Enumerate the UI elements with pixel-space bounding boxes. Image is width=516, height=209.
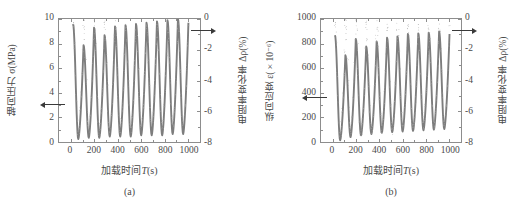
x-tick-b-3: 600: [396, 146, 410, 156]
y-tick-right-b-1: -2: [465, 45, 473, 55]
y-tick-left-a-0: 10: [45, 13, 55, 23]
y-tick-left-b-0: 1000: [297, 13, 316, 23]
y-tick-left-a-5: 0: [49, 138, 54, 148]
annotation-arrow-left-b: [307, 97, 327, 98]
x-tick-a-2: 400: [110, 146, 124, 156]
y-tick-right-b-2: -4: [465, 76, 473, 86]
annotation-arrow-right-b: [452, 30, 472, 31]
x-tick-labels-a: 0 200 400 600 800 1000: [58, 146, 201, 158]
series-canvas-a: [59, 19, 200, 142]
y-tick-left-a-3: 4: [49, 88, 54, 98]
x-tick-b-1: 200: [348, 146, 362, 156]
chart-panel-b: 纵向应变 ε(×10⁻⁶) 电阻率变化率 Δρ(%) 1000 800 600 …: [258, 0, 516, 209]
plot-area-a: [58, 18, 201, 143]
y-tick-left-b-5: 0: [311, 138, 316, 148]
axis-title-x-b-unit: (s): [409, 165, 420, 176]
figure-cyclic-loading-resistivity: 轴向压力 σ(MPa) 电阻率变化率 Δρ(%) 10 8 6 4 2 0 0 …: [0, 0, 516, 209]
y-tick-right-a-0: 0: [204, 13, 209, 23]
y-tick-labels-right-b: 0 -2 -4 -6 -8: [465, 18, 495, 143]
y-tick-right-b-0: 0: [465, 13, 470, 23]
x-tick-labels-b: 0 200 400 600 800 1000: [320, 146, 462, 158]
y-tick-right-b-3: -6: [465, 107, 473, 117]
y-tick-right-a-4: -8: [204, 138, 212, 148]
y-tick-left-b-1: 800: [302, 38, 316, 48]
axis-title-x-a: 加载时间T(s): [58, 162, 201, 177]
y-tick-left-a-1: 8: [49, 38, 54, 48]
axis-title-x-b: 加载时间T(s): [320, 162, 462, 177]
chart-panel-a: 轴向压力 σ(MPa) 电阻率变化率 Δρ(%) 10 8 6 4 2 0 0 …: [0, 0, 258, 209]
axis-title-right-a: 电阻率变化率 Δρ(%): [236, 18, 250, 143]
panel-label-a: (a): [58, 186, 201, 197]
y-tick-left-b-2: 600: [302, 63, 316, 73]
x-tick-a-3: 600: [134, 146, 148, 156]
y-tick-left-a-4: 2: [49, 113, 54, 123]
axis-title-x-a-unit: (s): [147, 165, 158, 176]
y-tick-right-a-2: -4: [204, 76, 212, 86]
y-tick-right-a-1: -2: [204, 45, 212, 55]
y-tick-labels-left-b: 1000 800 600 400 200 0: [258, 18, 316, 143]
y-tick-labels-right-a: 0 -2 -4 -6 -8: [204, 18, 234, 143]
annotation-arrow-left-a: [45, 104, 65, 105]
x-tick-a-4: 800: [158, 146, 172, 156]
y-tick-left-b-4: 200: [302, 113, 316, 123]
plot-area-b: [320, 18, 462, 143]
y-tick-labels-left-a: 10 8 6 4 2 0: [0, 18, 54, 143]
x-tick-a-5: 1000: [180, 146, 199, 156]
x-tick-b-4: 800: [419, 146, 433, 156]
x-tick-a-0: 0: [68, 146, 73, 156]
x-tick-b-5: 1000: [441, 146, 460, 156]
y-tick-right-a-3: -6: [204, 107, 212, 117]
series-svg-b: [321, 19, 461, 142]
axis-title-x-a-cn: 加载时间: [101, 165, 141, 176]
axis-title-right-b: 电阻率变化率 Δρ(%): [496, 18, 510, 143]
panel-label-b: (b): [320, 186, 462, 197]
x-tick-b-0: 0: [329, 146, 334, 156]
x-tick-a-1: 200: [87, 146, 101, 156]
series-canvas-b: [321, 19, 461, 142]
y-tick-left-a-2: 6: [49, 63, 54, 73]
y-tick-right-b-4: -8: [465, 138, 473, 148]
x-tick-b-2: 400: [372, 146, 386, 156]
series-svg-a: [59, 19, 200, 142]
axis-title-x-b-cn: 加载时间: [363, 165, 403, 176]
annotation-arrow-right-a: [191, 30, 211, 31]
